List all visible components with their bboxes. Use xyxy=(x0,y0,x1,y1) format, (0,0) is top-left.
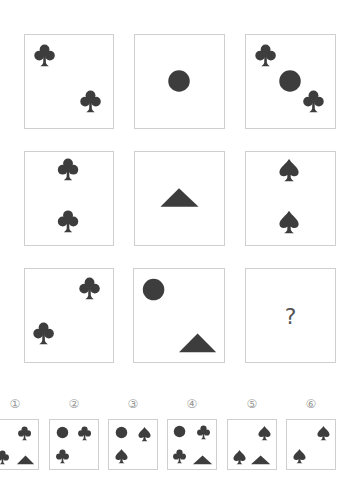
option-label-6: ⑥ xyxy=(296,397,326,411)
grid-cell-r3c2 xyxy=(133,268,225,363)
triangle-icon xyxy=(251,456,270,465)
two-spades-vertical xyxy=(246,152,335,245)
triangle-icon xyxy=(17,456,34,465)
club-icon xyxy=(78,426,91,440)
circle-icon xyxy=(168,70,190,92)
spade-icon xyxy=(279,159,298,181)
triangle-icon xyxy=(160,188,198,207)
spade-icon xyxy=(317,426,329,440)
club-icon xyxy=(33,322,53,344)
triangle-center xyxy=(135,152,224,245)
club-icon xyxy=(18,426,31,440)
triangle-icon xyxy=(179,334,216,353)
circle-center xyxy=(135,35,224,128)
spade-icon xyxy=(115,449,127,463)
club-icon xyxy=(34,44,54,66)
spade-icon xyxy=(279,211,298,233)
two-clubs-antidiagonal xyxy=(25,269,113,362)
club-icon xyxy=(303,90,323,112)
option-label-3: ③ xyxy=(118,397,148,411)
option-label-4: ④ xyxy=(177,397,207,411)
triangle-icon xyxy=(193,456,212,465)
grid-cell-r2c2 xyxy=(134,151,225,246)
circle-icon xyxy=(279,70,301,92)
question-mark: ? xyxy=(246,303,335,328)
grid-cell-r1c2 xyxy=(134,34,225,129)
club-icon xyxy=(80,90,100,112)
club-icon xyxy=(197,426,210,440)
circle-and-triangle xyxy=(134,269,224,362)
clubs-circle-diagonal xyxy=(246,35,335,128)
spade-icon xyxy=(138,427,150,441)
circle-icon xyxy=(143,279,165,301)
spade-icon xyxy=(293,449,305,463)
option-2[interactable] xyxy=(49,419,99,470)
club-icon xyxy=(79,278,99,300)
grid-cell-r3c1 xyxy=(24,268,114,363)
circle-icon xyxy=(174,426,186,438)
grid-cell-r1c1 xyxy=(24,34,114,129)
spade-icon xyxy=(258,426,270,440)
grid-cell-r2c1 xyxy=(24,151,114,246)
option-5[interactable] xyxy=(227,419,277,470)
club-icon xyxy=(255,44,275,66)
option-6[interactable] xyxy=(286,419,336,470)
option-1[interactable] xyxy=(0,419,39,470)
club-icon xyxy=(58,159,78,181)
club-icon xyxy=(58,210,78,232)
option-3[interactable] xyxy=(108,419,158,470)
club-icon xyxy=(56,450,69,464)
club-icon xyxy=(173,450,186,464)
option-4[interactable] xyxy=(167,419,217,470)
option-label-1: ① xyxy=(0,397,30,411)
spade-icon xyxy=(233,450,245,464)
circle-icon xyxy=(57,427,69,439)
circle-icon xyxy=(116,427,128,439)
option-label-5: ⑤ xyxy=(237,397,267,411)
two-clubs-diagonal xyxy=(25,35,113,128)
club-icon xyxy=(0,450,9,464)
grid-cell-r2c3 xyxy=(245,151,336,246)
grid-cell-r1c3 xyxy=(245,34,336,129)
grid-cell-r3c3-missing: ? xyxy=(245,268,336,363)
option-label-2: ② xyxy=(59,397,89,411)
two-clubs-vertical xyxy=(25,152,113,245)
